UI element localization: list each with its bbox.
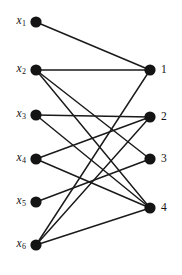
- edge-x4-4: [36, 159, 150, 208]
- node-x4[interactable]: [30, 153, 41, 164]
- node-3[interactable]: [144, 153, 155, 164]
- node-label-x4: x4: [17, 152, 27, 165]
- node-x2[interactable]: [30, 64, 41, 75]
- edge-x6-1: [36, 70, 150, 245]
- edge-x4-2: [36, 117, 150, 159]
- node-label-2: 2: [161, 111, 167, 123]
- edge-x3-4: [36, 115, 150, 208]
- node-label-x3: x3: [17, 108, 27, 121]
- node-label-3: 3: [161, 153, 167, 165]
- node-label-4: 4: [161, 202, 167, 214]
- node-4[interactable]: [144, 202, 155, 213]
- bipartite-graph-figure: x1x2x3x4x5x61234: [0, 0, 182, 275]
- node-label-x5: x5: [17, 195, 27, 208]
- node-layer: [30, 16, 155, 250]
- edge-x2-3: [36, 70, 150, 159]
- edge-x1-1: [36, 22, 150, 70]
- node-label-x6: x6: [17, 238, 27, 251]
- node-label-x2: x2: [17, 63, 27, 76]
- node-label-x1: x1: [17, 15, 27, 28]
- node-x5[interactable]: [30, 196, 41, 207]
- node-2[interactable]: [144, 111, 155, 122]
- node-x1[interactable]: [30, 16, 41, 27]
- edge-layer: [36, 22, 150, 245]
- edge-x2-4: [36, 70, 150, 208]
- node-1[interactable]: [144, 64, 155, 75]
- node-label-1: 1: [161, 64, 167, 76]
- graph-canvas: [0, 0, 182, 275]
- node-x6[interactable]: [30, 239, 41, 250]
- node-x3[interactable]: [30, 109, 41, 120]
- edge-x3-2: [36, 115, 150, 117]
